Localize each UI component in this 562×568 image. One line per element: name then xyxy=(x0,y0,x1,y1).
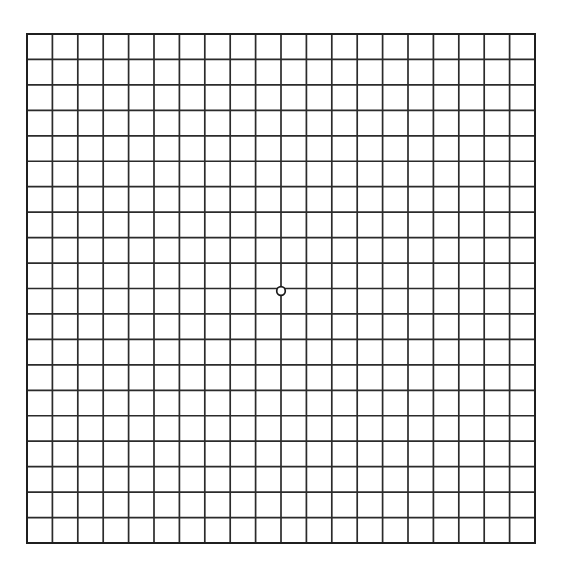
center-fixation-dot xyxy=(277,287,286,296)
amsler-grid-figure xyxy=(0,0,562,568)
amsler-grid-svg xyxy=(0,0,562,568)
amsler-grid-page xyxy=(0,0,562,568)
